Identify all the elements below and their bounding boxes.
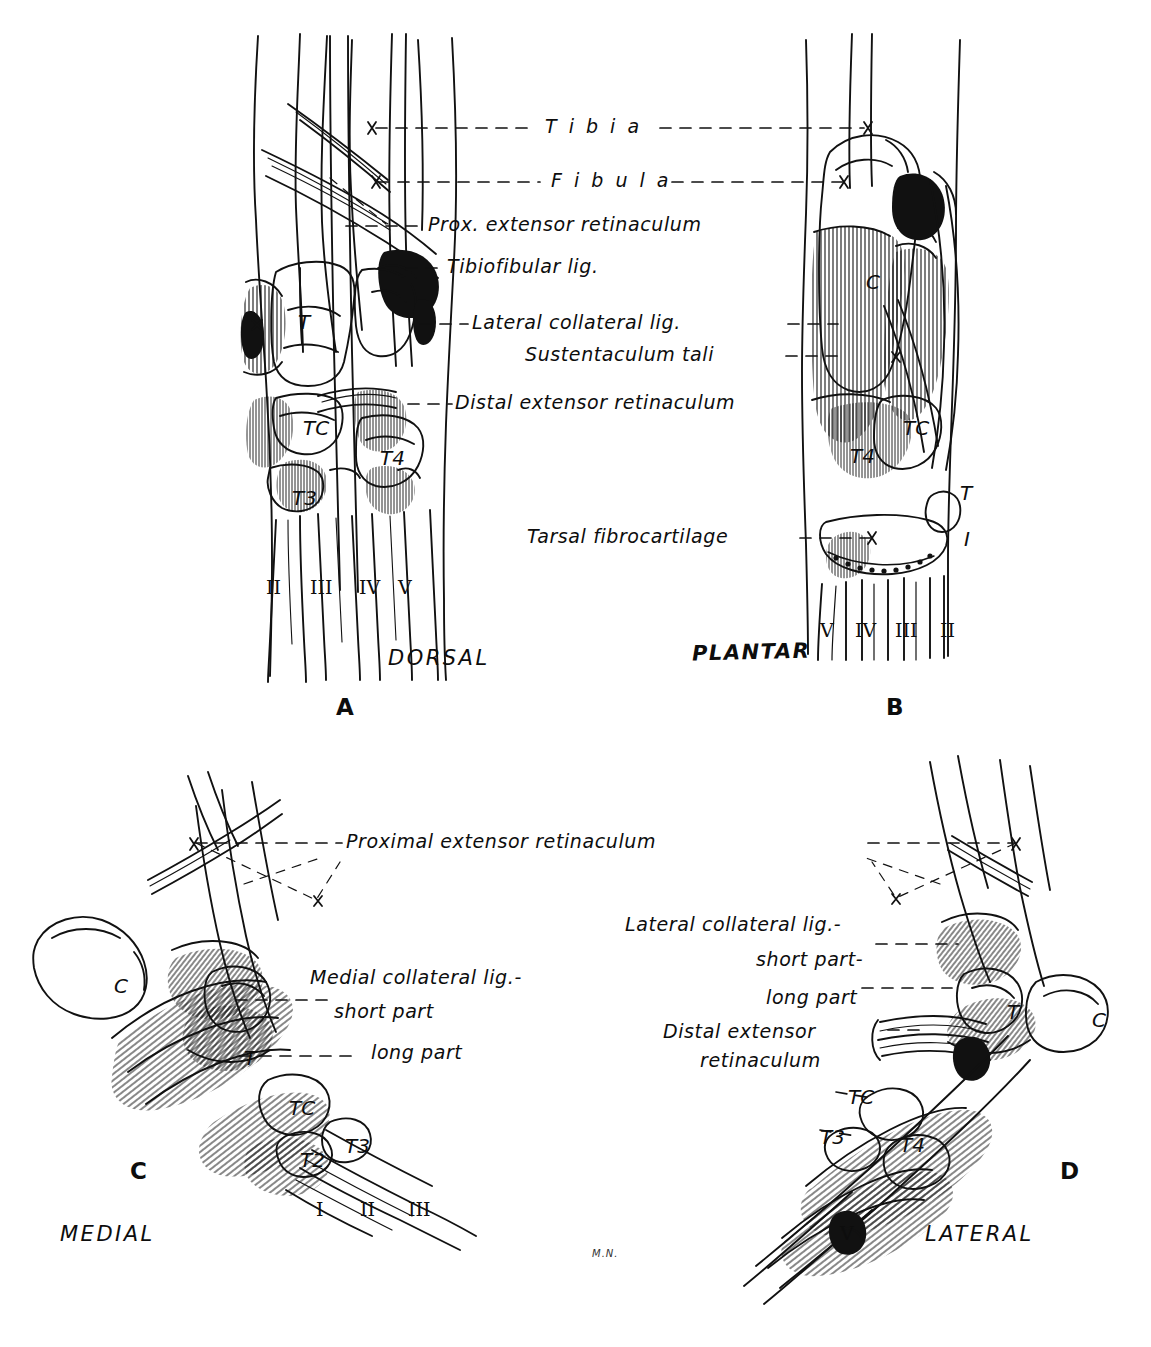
bone-label-a-tc: TC — [303, 416, 329, 440]
digit-b-ii: II — [940, 619, 955, 641]
bone-label-c-tc: TC — [289, 1096, 315, 1120]
bone-label-b-t4: T4 — [850, 444, 875, 468]
panel-letter-d: D — [1060, 1158, 1079, 1184]
label-distal-extensor-d-line2: retinaculum — [700, 1051, 821, 1071]
digit-c-i: I — [316, 1198, 324, 1220]
label-proximal-extensor-retinaculum: Proximal extensor retinaculum — [346, 832, 656, 852]
bone-label-d-t: T — [1007, 1000, 1019, 1024]
label-fibula: F i b u l a — [551, 171, 671, 191]
bone-label-b-t: T — [960, 481, 972, 505]
bone-label-d-c: C — [1092, 1008, 1106, 1032]
bone-label-c-t: T — [244, 1046, 256, 1070]
label-lateral-short-part: short part- — [756, 950, 863, 970]
bone-label-d-t4: T4 — [900, 1133, 925, 1157]
digit-a-iv: IV — [359, 576, 380, 598]
bone-label-b-tc: TC — [903, 416, 929, 440]
label-medial-short-part: short part — [334, 1002, 434, 1022]
label-lateral-collateral-lig: Lateral collateral lig. — [472, 313, 681, 333]
panel-letter-a: A — [336, 694, 354, 720]
digit-a-ii: II — [266, 576, 281, 598]
anatomical-plate: T i b i a F i b u l a Prox. extensor ret… — [0, 0, 1151, 1347]
bone-label-c-t3: T3 — [345, 1134, 370, 1158]
figure-caption — [28, 1331, 1128, 1347]
digit-d-v: V — [840, 1222, 854, 1244]
view-name-lateral: LATERAL — [925, 1222, 1034, 1246]
digit-b-iii: III — [895, 619, 918, 641]
label-medial-collateral-lig: Medial collateral lig.- — [310, 968, 522, 988]
panel-letter-c: C — [130, 1158, 147, 1184]
bone-label-b-i: I — [964, 527, 970, 551]
label-distal-extensor-retinaculum: Distal extensor retinaculum — [455, 393, 735, 413]
label-distal-extensor-d-line1: Distal extensor — [663, 1022, 816, 1042]
label-tarsal-fibrocartilage: Tarsal fibrocartilage — [527, 527, 728, 547]
label-tibia: T i b i a — [545, 117, 642, 137]
digit-a-iii: III — [310, 576, 333, 598]
label-prox-extensor-retinaculum: Prox. extensor retinaculum — [428, 215, 702, 235]
digit-b-iv: IV — [855, 619, 876, 641]
view-name-dorsal: DORSAL — [388, 646, 490, 670]
bone-label-b-c: C — [866, 270, 880, 294]
bone-label-d-tc: TC — [848, 1085, 874, 1109]
figure-artwork — [0, 0, 1151, 1347]
bone-label-c-t2: T2 — [300, 1148, 325, 1172]
bone-label-a-t3: T3 — [292, 486, 317, 510]
panel-letter-b: B — [886, 694, 904, 720]
bone-label-d-t3: T3 — [820, 1125, 845, 1149]
label-medial-long-part: long part — [371, 1043, 462, 1063]
digit-b-v: V — [820, 619, 834, 641]
label-lateral-collateral-lig-d: Lateral collateral lig.- — [625, 915, 841, 935]
view-name-medial: MEDIAL — [60, 1222, 155, 1246]
bone-label-c-c: C — [114, 974, 128, 998]
digit-c-iii: III — [408, 1198, 431, 1220]
bone-label-a-t: T — [298, 310, 310, 334]
view-name-plantar: PLANTAR — [692, 638, 811, 665]
bone-label-a-t4: T4 — [380, 446, 405, 470]
label-tibiofibular-lig: Tibiofibular lig. — [447, 257, 599, 277]
digit-a-v: V — [398, 576, 412, 598]
artist-signature: M.N. — [592, 1248, 618, 1259]
label-sustentaculum-tali: Sustentaculum tali — [525, 345, 714, 365]
digit-c-ii: II — [360, 1198, 375, 1220]
label-lateral-long-part: long part — [766, 988, 857, 1008]
